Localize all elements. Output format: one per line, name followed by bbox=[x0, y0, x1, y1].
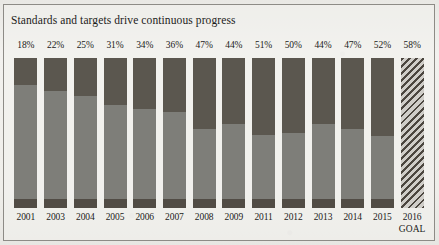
x-axis-tick-label: 2012 bbox=[284, 212, 303, 222]
bar-column: 18%2001 bbox=[14, 40, 37, 232]
bar-segment-base bbox=[14, 199, 37, 208]
bar-column: 58%2016GOAL bbox=[401, 40, 424, 232]
bar-segment-top bbox=[371, 58, 394, 136]
bar-segment-base bbox=[282, 199, 305, 208]
bar-column: 44%2013 bbox=[312, 40, 335, 232]
bar-segment-top bbox=[74, 58, 97, 96]
bar bbox=[341, 58, 364, 208]
x-axis-tick-label: 2001 bbox=[17, 212, 36, 222]
bar bbox=[193, 58, 216, 208]
bar-segment-base bbox=[252, 199, 275, 208]
bar-segment-top bbox=[193, 58, 216, 129]
bar-segment-base bbox=[222, 199, 245, 208]
bar-segment-base bbox=[163, 199, 186, 208]
bar-segment-top bbox=[44, 58, 67, 91]
x-axis-tick-label: 2013 bbox=[314, 212, 333, 222]
bar bbox=[14, 58, 37, 208]
bar bbox=[312, 58, 335, 208]
bar-value-label: 51% bbox=[255, 40, 272, 50]
plot-area: 18%200122%200325%200431%200534%200636%20… bbox=[11, 40, 427, 232]
bar-segment-top bbox=[282, 58, 305, 133]
goal-bar bbox=[401, 58, 424, 208]
bar-column: 22%2003 bbox=[44, 40, 67, 232]
bar-segment-top bbox=[104, 58, 127, 105]
bar-segment-base bbox=[371, 199, 394, 208]
bar-value-label: 47% bbox=[196, 40, 213, 50]
bar-value-label: 34% bbox=[136, 40, 153, 50]
x-axis-tick-label: 2003 bbox=[46, 212, 65, 222]
bar bbox=[163, 58, 186, 208]
bar-segment-top bbox=[312, 58, 335, 124]
x-axis-tick-label: 2014 bbox=[343, 212, 362, 222]
x-axis-tick-label: 2005 bbox=[106, 212, 125, 222]
bar bbox=[133, 58, 156, 208]
bar-segment-top bbox=[222, 58, 245, 124]
x-axis-tick-label: 2004 bbox=[76, 212, 95, 222]
bar bbox=[104, 58, 127, 208]
bar-value-label: 25% bbox=[77, 40, 94, 50]
bar-column: 36%2007 bbox=[163, 40, 186, 232]
x-axis-tick-label: 2006 bbox=[135, 212, 154, 222]
bar-value-label: 18% bbox=[17, 40, 34, 50]
bar-column: 34%2006 bbox=[133, 40, 156, 232]
bar-segment-base bbox=[74, 199, 97, 208]
bar-column: 47%2008 bbox=[193, 40, 216, 232]
x-axis-tick-sublabel: GOAL bbox=[399, 224, 426, 234]
bar-segment-top bbox=[252, 58, 275, 135]
x-axis-tick-label: 2009 bbox=[225, 212, 244, 222]
x-axis-tick-label: 2016 bbox=[403, 212, 422, 222]
bar-value-label: 50% bbox=[285, 40, 302, 50]
bar-value-label: 44% bbox=[314, 40, 331, 50]
bar-value-label: 58% bbox=[404, 40, 421, 50]
bar-segment-base bbox=[312, 199, 335, 208]
bar-value-label: 22% bbox=[47, 40, 64, 50]
bar-column: 44%2009 bbox=[222, 40, 245, 232]
bar-value-label: 52% bbox=[374, 40, 391, 50]
bar bbox=[371, 58, 394, 208]
bar-column: 50%2012 bbox=[282, 40, 305, 232]
chart-figure: Standards and targets drive continuous p… bbox=[0, 0, 439, 245]
bar-value-label: 36% bbox=[166, 40, 183, 50]
bar bbox=[74, 58, 97, 208]
bar-value-label: 47% bbox=[344, 40, 361, 50]
x-axis-tick-label: 2015 bbox=[373, 212, 392, 222]
bar-column: 47%2014 bbox=[341, 40, 364, 232]
bar-segment-top bbox=[133, 58, 156, 109]
bar-segment-base bbox=[341, 199, 364, 208]
bar-segment-top bbox=[14, 58, 37, 85]
bar bbox=[44, 58, 67, 208]
bar bbox=[282, 58, 305, 208]
x-axis-tick-label: 2008 bbox=[195, 212, 214, 222]
bar-segment-top bbox=[341, 58, 364, 129]
bar-segment-base bbox=[104, 199, 127, 208]
bar bbox=[222, 58, 245, 208]
chart-title: Standards and targets drive continuous p… bbox=[11, 14, 236, 26]
bar-segment-top bbox=[163, 58, 186, 112]
bar-segment-base bbox=[44, 199, 67, 208]
bar-segment-base bbox=[193, 199, 216, 208]
bar-segment-base bbox=[133, 199, 156, 208]
bar bbox=[252, 58, 275, 208]
bar-column: 25%2004 bbox=[74, 40, 97, 232]
x-axis-tick-label: 2011 bbox=[254, 212, 272, 222]
bar-column: 31%2005 bbox=[104, 40, 127, 232]
bar-value-label: 44% bbox=[225, 40, 242, 50]
bar-value-label: 31% bbox=[106, 40, 123, 50]
bar-column: 52%2015 bbox=[371, 40, 394, 232]
bar-column: 51%2011 bbox=[252, 40, 275, 232]
x-axis-tick-label: 2007 bbox=[165, 212, 184, 222]
